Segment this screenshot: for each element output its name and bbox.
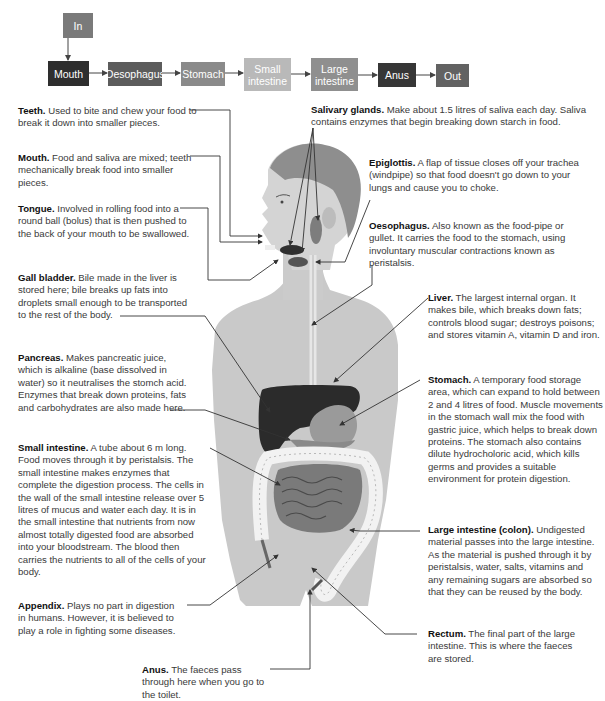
label-title: Salivary glands. bbox=[311, 104, 384, 115]
small-intestine bbox=[274, 464, 362, 533]
label-stomach: Stomach. A temporary food storage area, … bbox=[428, 374, 605, 486]
label-title: Appendix. bbox=[18, 600, 64, 611]
label-title: Stomach. bbox=[428, 374, 471, 385]
label-pancreas: Pancreas. Makes pancreatic juice, which … bbox=[18, 352, 188, 414]
flow-arrows bbox=[68, 38, 435, 75]
label-title: Mouth. bbox=[18, 152, 49, 163]
label-gall-bladder: Gall bladder. Bile made in the liver is … bbox=[18, 272, 188, 322]
label-small-intestine: Small intestine. A tube about 6 m long. … bbox=[18, 442, 206, 578]
label-title: Oesophagus. bbox=[369, 220, 430, 231]
label-title: Epiglottis. bbox=[369, 157, 415, 168]
ear bbox=[322, 207, 336, 229]
label-teeth: Teeth. Used to bite and chew your food t… bbox=[18, 105, 198, 130]
label-epiglottis: Epiglottis. A flap of tissue closes off … bbox=[369, 157, 579, 194]
label-title: Gall bladder. bbox=[18, 272, 76, 283]
label-title: Liver. bbox=[428, 292, 453, 303]
torso bbox=[212, 262, 398, 606]
label-anus: Anus. The faeces pass through here when … bbox=[142, 664, 272, 701]
label-title: Rectum. bbox=[428, 628, 466, 639]
label-tongue: Tongue. Involved in rolling food into a … bbox=[18, 203, 198, 240]
label-rectum: Rectum. The final part of the large inte… bbox=[428, 628, 578, 665]
label-text: A tube about 6 m long. Food moves throug… bbox=[18, 442, 206, 577]
label-oesophagus: Oesophagus. Also known as the food-pipe … bbox=[369, 220, 584, 270]
label-salivary-glands: Salivary glands. Make about 1.5 litres o… bbox=[311, 104, 601, 129]
label-text: The largest internal organ. It makes bil… bbox=[428, 292, 600, 340]
label-title: Anus. bbox=[142, 664, 169, 675]
label-title: Small intestine. bbox=[18, 442, 88, 453]
label-title: Tongue. bbox=[18, 203, 55, 214]
label-title: Teeth. bbox=[18, 105, 46, 116]
label-text: A temporary food storage area, which can… bbox=[428, 374, 603, 484]
eye bbox=[281, 201, 284, 204]
label-appendix: Appendix. Plays no part in digestion in … bbox=[18, 600, 183, 637]
label-mouth: Mouth. Food and saliva are mixed; teeth … bbox=[18, 152, 203, 189]
label-title: Pancreas. bbox=[18, 352, 63, 363]
label-large-intestine: Large intestine (colon). Undigested mate… bbox=[428, 524, 600, 598]
label-title: Large intestine (colon). bbox=[428, 524, 534, 535]
label-liver: Liver. The largest internal organ. It ma… bbox=[428, 292, 603, 342]
